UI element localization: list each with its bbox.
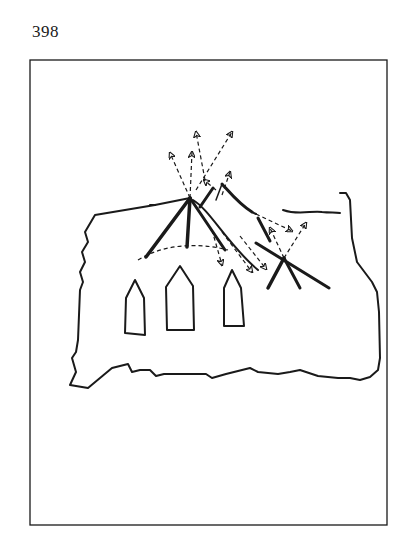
gothic-windows <box>125 266 244 335</box>
force-arrows-apex-1 <box>170 132 266 272</box>
window-left <box>125 280 145 335</box>
window-center <box>166 266 194 330</box>
window-right <box>224 270 244 326</box>
figure-drawing <box>0 0 413 543</box>
figure-border <box>30 60 387 525</box>
rafter-lines-apex-1 <box>146 184 270 270</box>
force-arrows-apex-2 <box>256 214 306 258</box>
